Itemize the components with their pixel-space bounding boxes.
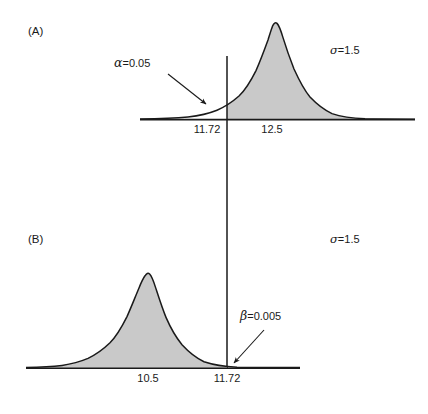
statistics-figure: (A) α=0.05 σ=1.5 11.72 12.5 (B) σ=1.5 β=… <box>0 0 428 414</box>
sigma-value: =1.5 <box>338 233 360 245</box>
alpha-value: =0.05 <box>122 57 150 69</box>
figure-canvas <box>0 0 428 414</box>
panel-a-tick-12-5: 12.5 <box>261 124 282 135</box>
panel-b-tag: (B) <box>28 234 43 246</box>
panel-b-tick-10-5: 10.5 <box>137 373 158 384</box>
sigma-value: =1.5 <box>338 44 360 56</box>
panel-a-alpha-label: α=0.05 <box>114 57 150 70</box>
panel-b-sigma-label: σ=1.5 <box>330 234 360 246</box>
panel-a-tag: (A) <box>28 26 43 38</box>
sigma-symbol: σ <box>330 232 338 246</box>
panel-a-tick-11-72: 11.72 <box>194 124 221 135</box>
panel-a-alpha-arrow <box>168 74 206 104</box>
panel-a-sigma-label: σ=1.5 <box>330 45 360 57</box>
panel-a-shaded-region <box>140 23 415 120</box>
sigma-symbol: σ <box>330 43 338 57</box>
panel-b-tick-11-72: 11.72 <box>214 373 241 384</box>
panel-b-beta-arrow <box>234 330 264 363</box>
beta-value: =0.005 <box>247 310 281 322</box>
panel-b-beta-label: β=0.005 <box>240 310 281 323</box>
